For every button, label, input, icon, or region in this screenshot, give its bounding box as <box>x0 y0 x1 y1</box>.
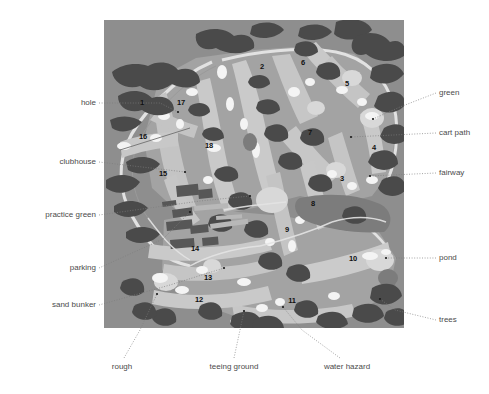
hole-number-12: 12 <box>195 296 203 304</box>
hole-number-13: 13 <box>204 274 212 282</box>
hole-number-6: 6 <box>301 59 305 67</box>
hole-number-18: 18 <box>205 142 213 150</box>
hole-number-10: 10 <box>349 255 357 263</box>
hole-number-15: 15 <box>159 170 167 178</box>
callout-label-practice-green: practice green <box>45 211 96 219</box>
callout-label-parking: parking <box>70 264 96 272</box>
hole-number-11: 11 <box>288 297 296 305</box>
map-artwork <box>104 20 404 328</box>
hole-number-17: 17 <box>177 99 185 107</box>
hole-number-5: 5 <box>345 80 349 88</box>
hole-number-14: 14 <box>191 245 199 253</box>
figure-root: 123456789101112131415161718 holeclubhous… <box>0 0 489 394</box>
hole-number-8: 8 <box>311 200 315 208</box>
golf-course-map: 123456789101112131415161718 <box>104 20 404 328</box>
hole-number-3: 3 <box>340 175 344 183</box>
hole-number-2: 2 <box>260 63 264 71</box>
callout-label-hole: hole <box>81 99 96 107</box>
callout-label-cart-path: cart path <box>439 129 470 137</box>
hole-number-1: 1 <box>140 99 144 107</box>
callout-label-trees: trees <box>439 316 457 324</box>
callout-label-green: green <box>439 89 459 97</box>
callout-label-pond: pond <box>439 254 457 262</box>
callout-label-water-hazard: water hazard <box>324 363 370 371</box>
callout-label-rough: rough <box>112 363 132 371</box>
hole-number-16: 16 <box>139 133 147 141</box>
callout-label-sand-bunker: sand bunker <box>52 301 96 309</box>
callout-label-clubhouse: clubhouse <box>60 158 96 166</box>
hole-number-4: 4 <box>372 144 376 152</box>
hole-number-9: 9 <box>285 226 289 234</box>
callout-label-fairway: fairway <box>439 169 464 177</box>
hole-number-7: 7 <box>308 129 312 137</box>
callout-label-teeing-ground: teeing ground <box>210 363 259 371</box>
